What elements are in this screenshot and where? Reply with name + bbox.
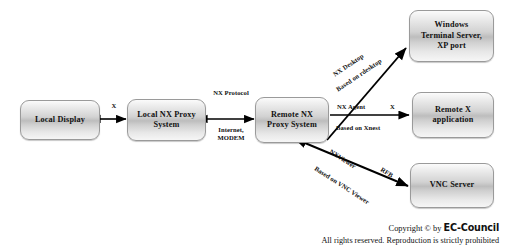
diagram-canvas: Local Display Local NX Proxy System Remo… <box>0 0 505 249</box>
node-local-nx-proxy-line-1: System <box>134 120 199 131</box>
node-vnc-server[interactable]: VNC Server <box>410 163 494 208</box>
edge-label-x-link: X <box>106 102 122 110</box>
edge-label-nx-viewer: NXViewer <box>328 148 358 171</box>
node-local-display-line-0: Local Display <box>32 115 88 126</box>
edge-label-nx-protocol: NX Protocol <box>209 89 253 97</box>
node-windows-terminal-server[interactable]: Windows Terminal Server, XP port <box>409 10 494 62</box>
node-local-nx-proxy[interactable]: Local NX Proxy System <box>127 99 206 141</box>
edge-label-based-on-vnc-viewer: Based on VNC Viewer <box>313 165 371 207</box>
node-remote-nx-proxy-line-1: Proxy System <box>264 120 320 131</box>
node-local-nx-proxy-line-0: Local NX Proxy <box>134 110 199 121</box>
edge-label-x-agent: X <box>390 103 395 111</box>
rights-line: All rights reserved. Reproduction is str… <box>321 235 499 246</box>
node-remote-x-app-line-1: application <box>430 115 477 126</box>
footer: Copyright © by EC-Council All rights res… <box>321 222 499 246</box>
node-windows-terminal-line-2: XP port <box>418 41 485 52</box>
node-remote-nx-proxy-line-0: Remote NX <box>264 110 320 121</box>
node-remote-x-app-line-0: Remote X <box>430 105 477 116</box>
copyright-prefix: Copyright © by <box>389 224 442 233</box>
node-vnc-server-line-0: VNC Server <box>427 180 478 191</box>
edge-label-based-on-xnest: Based on Xnest <box>336 124 380 132</box>
node-remote-x-application[interactable]: Remote X application <box>412 92 494 138</box>
edge-label-nx-agent: NX Agent <box>337 103 365 111</box>
node-windows-terminal-line-0: Windows <box>418 20 485 31</box>
node-remote-nx-proxy[interactable]: Remote NX Proxy System <box>255 97 329 143</box>
copyright-line: Copyright © by EC-Council <box>321 222 499 235</box>
node-local-display[interactable]: Local Display <box>20 100 100 140</box>
edge-label-internet-modem: Internet, MODEM <box>209 126 253 142</box>
node-windows-terminal-line-1: Terminal Server, <box>418 31 485 42</box>
brand-ec-council: EC-Council <box>444 222 499 233</box>
edge-label-rfb: RFB <box>379 166 395 180</box>
